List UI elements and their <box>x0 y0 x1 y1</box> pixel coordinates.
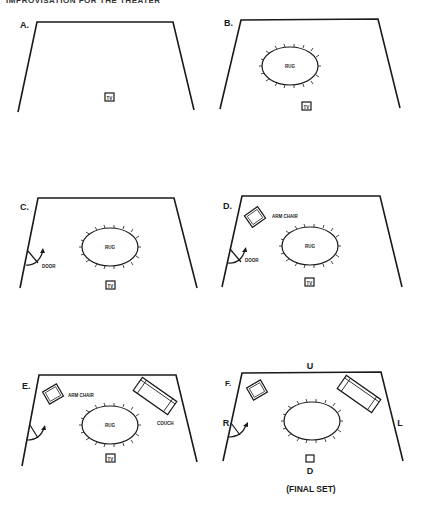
set-diagram: A. TV B. RUG TV C. <box>0 0 424 506</box>
stage-outline <box>220 19 400 109</box>
stage-left-label: L <box>397 418 403 428</box>
panel-e: E. ARM CHAIR COUCH <box>22 375 197 466</box>
tv-icon: TV <box>106 281 115 289</box>
panel-c-label: C. <box>20 202 29 212</box>
stage-outline <box>222 196 402 287</box>
tv-icon <box>306 455 314 462</box>
tv-label: TV <box>304 105 310 110</box>
tv-label: TV <box>307 281 313 286</box>
stage-right-label: R <box>223 418 230 428</box>
arm-chair-icon: ARM CHAIR <box>244 207 298 228</box>
door-label: DOOR <box>42 264 56 269</box>
panel-b: B. RUG TV <box>220 18 400 110</box>
rug-icon: RUG <box>79 403 141 447</box>
tv-label: TV <box>108 457 114 462</box>
panel-b-label: B. <box>224 18 233 28</box>
panel-d-label: D. <box>223 201 232 211</box>
panel-f: F. U R L D (FINAL SET) <box>223 361 404 494</box>
tv-label: TV <box>107 96 113 101</box>
door-label: DOOR <box>245 258 259 263</box>
rug-icon: RUG <box>279 224 341 268</box>
rug-icon: RUG <box>79 225 141 269</box>
door-icon: DOOR <box>26 248 56 269</box>
tv-icon: TV <box>105 93 114 101</box>
panel-f-label: F. <box>225 379 231 388</box>
tv-icon: TV <box>305 278 314 286</box>
couch-label: COUCH <box>157 421 174 426</box>
arm-chair-label: ARM CHAIR <box>272 214 298 219</box>
rug-label: RUG <box>285 64 295 69</box>
stage-down-label: D <box>307 466 314 476</box>
panel-a-label: A. <box>20 20 29 30</box>
tv-icon: TV <box>302 102 311 110</box>
arm-chair-icon: ARM CHAIR <box>43 384 95 404</box>
couch-icon: COUCH <box>133 377 177 426</box>
stage-outline <box>20 198 197 288</box>
rug-label: RUG <box>105 245 115 250</box>
stage-up-label: U <box>307 361 314 371</box>
arm-chair-icon <box>247 380 268 400</box>
arm-chair-label: ARM CHAIR <box>68 393 94 398</box>
rug-icon: RUG <box>259 44 321 88</box>
tv-label: TV <box>108 284 114 289</box>
panel-e-label: E. <box>22 381 31 391</box>
panel-a: A. TV <box>18 20 194 112</box>
panel-d: D. ARM CHAIR DOOR RUG <box>222 196 402 287</box>
panel-c: C. DOOR RUG TV <box>20 198 197 289</box>
door-icon: DOOR <box>228 247 259 263</box>
rug-label: RUG <box>305 244 315 249</box>
rug-label: RUG <box>105 423 115 428</box>
final-set-caption: (FINAL SET) <box>286 484 336 494</box>
tv-icon: TV <box>106 454 115 462</box>
couch-icon <box>337 375 381 412</box>
rug-icon <box>281 399 343 443</box>
